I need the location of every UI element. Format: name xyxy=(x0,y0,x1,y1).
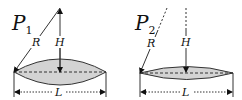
length-label: L xyxy=(54,86,62,99)
panel-title: P1 xyxy=(11,11,32,37)
height-label: H xyxy=(54,36,65,49)
lens-diagram: P1 R H L P2 R H L xyxy=(0,0,242,100)
radius-label: R xyxy=(146,37,155,50)
radius-label: R xyxy=(31,36,40,49)
panel-p2: P2 R H L xyxy=(134,8,233,99)
height-label: H xyxy=(180,36,191,49)
radius-line-dashed xyxy=(158,8,167,30)
panel-p1: P1 R H L xyxy=(11,8,106,99)
length-label: L xyxy=(181,86,189,99)
panel-title: P2 xyxy=(134,11,155,37)
